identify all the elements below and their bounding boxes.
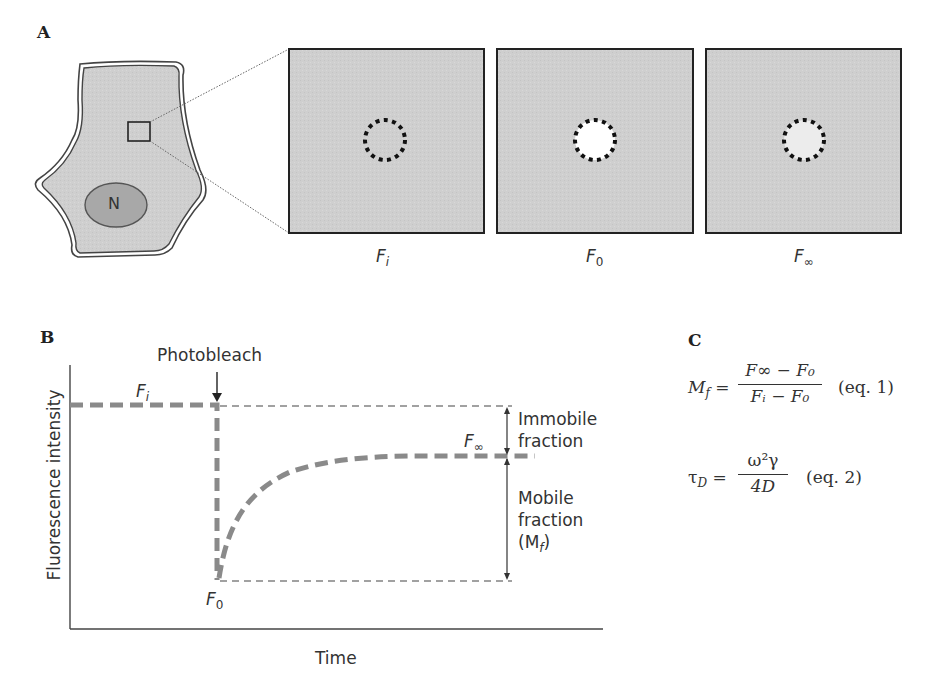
frame-postbleach — [497, 49, 693, 233]
mobile-fraction-label: Mobile fraction (Mf) — [518, 487, 583, 559]
figure-canvas — [0, 0, 933, 686]
equation-2: τD = ω²γ 4D (eq. 2) — [688, 450, 928, 510]
frame-label-f0: F0 — [586, 246, 603, 269]
frame-label-finf: F∞ — [794, 246, 814, 269]
finf-label: F∞ — [464, 431, 484, 454]
fluorescence-curve — [70, 405, 217, 580]
immobile-fraction-label: Immobile fraction — [518, 408, 597, 452]
nucleus-label: N — [108, 194, 120, 213]
photobleach-label: Photobleach — [157, 345, 262, 365]
fi-label: Fi — [136, 381, 149, 404]
equation-1: Mf = F∞ − F₀ Fᵢ − F₀ (eq. 1) — [688, 360, 928, 420]
cell-illustration — [35, 49, 289, 257]
f0-label: F0 — [206, 589, 223, 612]
x-axis-label: Time — [315, 648, 357, 668]
frame-recovered — [706, 49, 901, 233]
frame-label-fi: Fi — [376, 246, 389, 269]
arrow-up-icon — [504, 407, 510, 414]
y-axis-label: Fluorescence intensity — [44, 389, 64, 580]
frame-initial — [289, 49, 484, 233]
photobleach-arrow-icon — [212, 393, 222, 402]
